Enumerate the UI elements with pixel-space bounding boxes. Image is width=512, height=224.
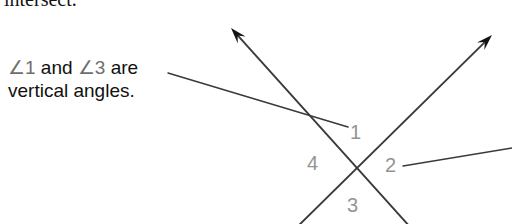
angle-label-3: 3 [347, 195, 358, 215]
angle-label-4: 4 [307, 153, 318, 173]
leader-line-from-angle-2 [403, 148, 512, 166]
geometry-figure: intersect. ∠1 and ∠3 are vertical angles… [0, 0, 512, 224]
angle-label-1: 1 [350, 122, 361, 142]
leader-line-to-angle-1 [168, 73, 348, 127]
angle-label-2: 2 [385, 155, 396, 175]
rays-drawing [0, 0, 512, 224]
ray-upper-left [237, 35, 409, 224]
